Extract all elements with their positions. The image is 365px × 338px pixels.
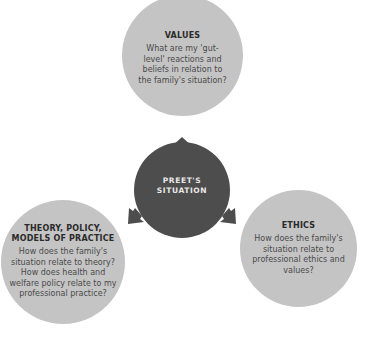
center-label-line1: PREET'S: [142, 176, 222, 186]
theory-body: How does the family's situation relate t…: [9, 247, 117, 300]
values-title: VALUES: [165, 31, 201, 41]
theory-title: THEORY, POLICY, MODELS OF PRACTICE: [9, 224, 117, 244]
ethics-title: ETHICS: [282, 221, 316, 231]
center-label-line2: SITUATION: [142, 186, 222, 196]
ethics-body: How does the family's situation relate t…: [250, 234, 347, 276]
theory-node: THEORY, POLICY, MODELS OF PRACTICE How d…: [1, 200, 125, 324]
center-label: PREET'S SITUATION: [142, 176, 222, 196]
values-node: VALUES What are my 'gut-level' reactions…: [122, 0, 243, 116]
ethics-node: ETHICS How does the family's situation r…: [240, 190, 357, 307]
values-body: What are my 'gut-level' reactions and be…: [136, 44, 229, 86]
